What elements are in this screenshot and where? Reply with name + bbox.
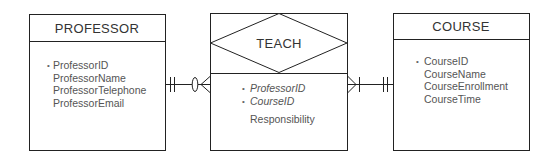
attribute-professor-email: ProfessorEmail (53, 97, 124, 109)
entity-teach[interactable]: TEACH • ProfessorID • CourseID Responsib… (211, 14, 348, 151)
attribute-professor-telephone: ProfessorTelephone (53, 84, 147, 96)
attribute-teach-professor-id: ProfessorID (250, 82, 306, 94)
entity-course[interactable]: COURSE • CourseID CourseName CourseEnrol… (394, 14, 530, 151)
relationship-professor-teach[interactable] (166, 76, 211, 93)
entity-professor-title: PROFESSOR (55, 21, 139, 36)
attribute-teach-responsibility: Responsibility (250, 113, 316, 125)
attribute-course-enrollment: CourseEnrollment (424, 80, 508, 92)
key-bullet-icon: • (47, 61, 50, 70)
entity-course-title: COURSE (432, 19, 489, 34)
cardinality-zero-circle-icon (192, 78, 198, 92)
key-bullet-icon: • (242, 84, 245, 93)
attribute-professor-name: ProfessorName (53, 72, 126, 84)
key-bullet-icon: • (242, 97, 245, 106)
entity-teach-title: TEACH (256, 36, 302, 51)
er-diagram: PROFESSOR • ProfessorID ProfessorName Pr… (0, 0, 554, 159)
entity-professor[interactable]: PROFESSOR • ProfessorID ProfessorName Pr… (30, 15, 166, 151)
attribute-professor-id: ProfessorID (53, 59, 109, 71)
attribute-course-name: CourseName (424, 68, 486, 80)
attribute-course-time: CourseTime (424, 93, 481, 105)
attribute-course-id: CourseID (424, 55, 469, 67)
attribute-teach-course-id: CourseID (250, 95, 295, 107)
key-bullet-icon: • (416, 57, 419, 66)
relationship-teach-course[interactable] (348, 76, 394, 93)
